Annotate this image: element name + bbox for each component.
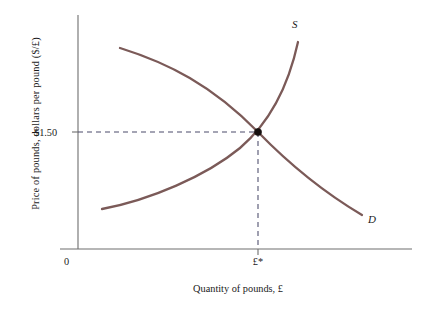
supply-demand-chart: Price of pounds, dollars per pound ($/£)…	[0, 0, 426, 314]
supply-curve	[102, 42, 298, 209]
supply-curve-label: S	[292, 18, 298, 30]
x-axis-label: Quantity of pounds, £	[148, 283, 328, 294]
y-tick-label-price: $1.50	[34, 127, 57, 138]
equilibrium-point-marker	[254, 128, 261, 135]
y-axis-label: Price of pounds, dollars per pound ($/£)	[30, 29, 41, 219]
demand-curve-label: D	[368, 213, 376, 225]
x-tick-label-quantity: £*	[243, 256, 273, 267]
origin-label: 0	[64, 256, 69, 267]
